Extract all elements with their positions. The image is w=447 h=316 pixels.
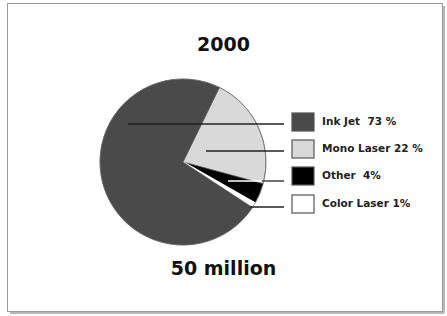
legend-swatch — [292, 140, 314, 158]
legend-label: Ink Jet 73 % — [322, 115, 396, 127]
legend-swatch — [292, 195, 314, 213]
legend-label: Mono Laser 22 % — [322, 142, 423, 154]
legend-label: Color Laser 1% — [322, 197, 410, 209]
legend-label: Other 4% — [322, 169, 381, 181]
legend-swatch — [292, 167, 314, 185]
legend-swatch — [292, 113, 314, 131]
chart-subtitle: 50 million — [0, 257, 447, 279]
